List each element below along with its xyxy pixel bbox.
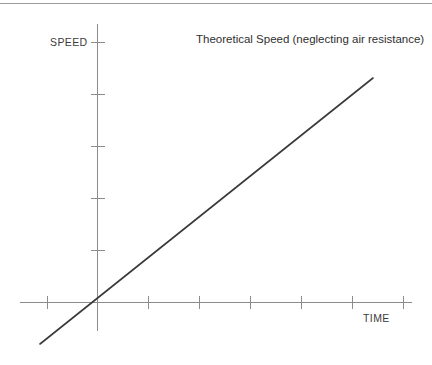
speed-vs-time-plot: [0, 0, 432, 365]
chart-title-annotation: Theoretical Speed (neglecting air resist…: [196, 33, 424, 45]
chart-figure: SPEED TIME Theoretical Speed (neglecting…: [0, 0, 432, 365]
y-axis-label: SPEED: [50, 36, 88, 48]
x-axis-label: TIME: [363, 312, 390, 324]
theoretical-speed-line: [40, 78, 373, 344]
